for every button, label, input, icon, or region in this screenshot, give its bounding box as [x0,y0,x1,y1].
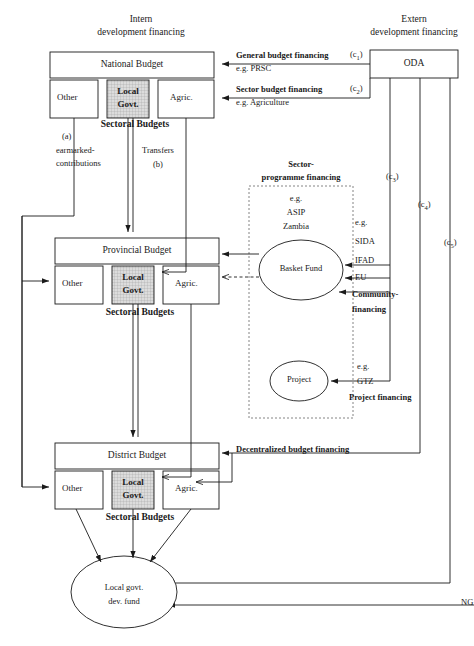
diagram-canvas: Intern development financing Extern deve… [0,0,474,646]
flow-code-c1: (c1) [350,50,363,61]
provincial-sectoral-budgets-caption: Sectoral Budgets [106,307,174,318]
local-govt-dev-fund-line2[interactable]: dev. fund [108,597,140,607]
district-other-box[interactable]: Other [62,483,83,493]
header-extern-line2: development financing [370,27,457,38]
flow-example-prsc: e.g. PRSC [236,64,271,74]
donor-gtz: GTZ [357,377,374,387]
provincial-other-box[interactable]: Other [62,278,83,288]
donor-eu: EU [355,273,366,283]
flow-label-decentralized-budget-financing: Decentralized budget financing [236,445,349,455]
flow-label-general-budget-financing: General budget financing [236,51,329,61]
sector-programme-title-line1: Sector- [288,160,314,170]
national-agric-box[interactable]: Agric. [170,92,193,102]
provincial-local-govt-box-line2[interactable]: Govt. [122,285,143,295]
national-sectoral-budgets-caption: Sectoral Budgets [101,119,169,130]
local-govt-dev-fund-line1[interactable]: Local govt. [105,583,144,593]
internal-flow-earmarked-line2: contributions [56,159,101,169]
sector-programme-eg: e.g. [290,194,302,204]
sector-programme-title-line2: programme financing [262,173,341,183]
flow-code-c4: (c4) [418,200,431,211]
flow-example-c3-eg: e.g. [355,218,367,228]
provincial-agric-box[interactable]: Agric. [175,278,198,288]
oda-box-label[interactable]: ODA [404,58,425,69]
flow-code-c2: (c2) [350,84,363,95]
district-sectoral-budgets-caption: Sectoral Budgets [106,512,174,523]
national-local-govt-box-line2[interactable]: Govt. [117,99,138,109]
provincial-budget-title[interactable]: Provincial Budget [103,245,172,256]
national-other-box[interactable]: Other [57,92,78,102]
header-intern-line1: Intern [130,14,153,25]
flow-example-c5-eg: e.g. [357,362,369,372]
flow-example-agriculture: e.g. Agriculture [236,98,289,108]
donor-sida: SIDA [355,237,375,247]
ngo-label: NG [461,598,473,608]
flow-label-community-financing-line2: financing [352,305,386,315]
provincial-local-govt-box-line1[interactable]: Local [122,272,144,282]
internal-flow-transfers-label: Transfers [142,146,174,156]
donor-ifad: IFAD [355,256,374,266]
header-extern-line1: Extern [401,14,426,25]
flow-label-sector-budget-financing: Sector budget financing [236,85,322,95]
flow-code-c5: (c5) [444,238,457,249]
national-budget-title[interactable]: National Budget [101,59,164,70]
district-local-govt-box-line2[interactable]: Govt. [122,490,143,500]
district-agric-box[interactable]: Agric. [175,483,198,493]
district-local-govt-box-line1[interactable]: Local [122,477,144,487]
national-local-govt-box-line1[interactable]: Local [117,86,139,96]
flow-code-c3: (c3) [386,172,399,183]
internal-flow-earmarked-line1: earmarked- [56,146,95,156]
sector-programme-item-zambia: Zambia [283,222,309,232]
internal-flow-code-b: (b) [153,160,163,170]
header-intern-line2: development financing [97,27,184,38]
district-budget-title[interactable]: District Budget [108,450,166,461]
flow-label-project-financing: Project financing [349,393,411,403]
sector-programme-item-asip: ASIP [287,208,305,218]
basket-fund-label[interactable]: Basket Fund [280,264,323,274]
project-label[interactable]: Project [287,375,311,385]
flow-label-community-financing-line1: Community- [352,290,398,300]
internal-flow-code-a: (a) [62,132,71,142]
